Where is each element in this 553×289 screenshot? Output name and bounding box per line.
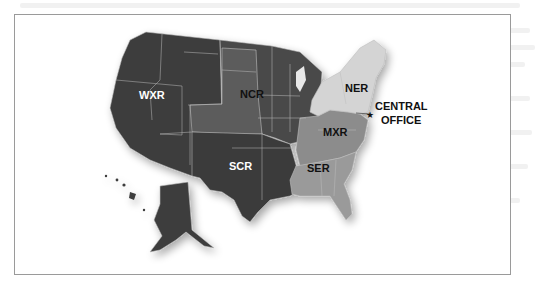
region-hawaii[interactable] xyxy=(105,175,145,211)
us-regions-map: ★ WXR NCR SCR MXR SER NER CENTRAL OFFICE xyxy=(0,0,553,289)
star-icon: ★ xyxy=(366,110,374,120)
central-office-label-line2: OFFICE xyxy=(381,114,421,126)
region-alaska[interactable] xyxy=(150,182,214,252)
label-wxr: WXR xyxy=(139,89,165,101)
central-office-label-line1: CENTRAL xyxy=(375,100,428,112)
label-mxr: MXR xyxy=(323,126,348,138)
region-mxr[interactable] xyxy=(296,110,368,166)
label-ner: NER xyxy=(345,82,368,94)
label-ncr: NCR xyxy=(240,88,264,100)
label-ser: SER xyxy=(307,162,330,174)
label-scr: SCR xyxy=(229,160,252,172)
region-scr[interactable] xyxy=(192,132,300,222)
